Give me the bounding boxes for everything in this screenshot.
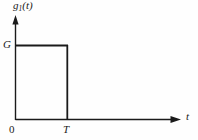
y-axis-arrowhead	[12, 15, 18, 25]
y-tick-label-amplitude: G	[3, 39, 11, 50]
y-axis-label-arg: (t)	[22, 0, 32, 11]
plot-canvas	[0, 0, 198, 140]
y-axis-label: g1(t)	[13, 0, 33, 13]
rectangular-pulse-figure: g1(t) t G 0 T	[0, 0, 198, 140]
x-tick-label-duration: T	[63, 124, 69, 135]
x-axis-label: t	[186, 111, 189, 122]
x-tick-label-origin: 0	[9, 124, 15, 135]
x-axis-arrowhead	[171, 116, 182, 123]
